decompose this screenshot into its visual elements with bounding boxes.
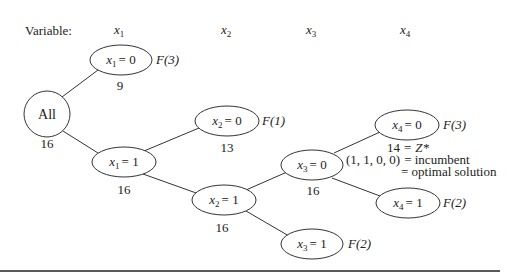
edge-x1-1-x2-1 xyxy=(143,174,199,194)
node-root: All 16 xyxy=(24,91,70,151)
node-x1-0: x1= 0 9 F(3) xyxy=(90,45,179,93)
node-root-label: All xyxy=(38,107,56,122)
edge-x2-1-x3-1 xyxy=(246,211,289,236)
node-x3-1: x3= 1 F(2) xyxy=(281,229,371,259)
header-var-x1: x1 xyxy=(113,22,124,39)
node-x3-0-bound: 16 xyxy=(307,183,321,198)
edge-root-x1-0 xyxy=(62,70,98,97)
node-x1-0-bound: 9 xyxy=(117,78,124,93)
edge-root-x1-1 xyxy=(63,131,98,153)
header-var-x4: x4 xyxy=(399,22,411,39)
node-x3-0: x3= 0 16 xyxy=(281,150,343,198)
node-x2-0: x2= 0 13 F(1) xyxy=(195,106,285,155)
variable-header-label: Variable: xyxy=(25,23,72,38)
node-x2-1-bound: 16 xyxy=(216,220,230,235)
node-x2-1: x2= 1 16 xyxy=(192,185,256,235)
annotation-optimal-solution: = optimal solution xyxy=(401,164,497,179)
node-x4-1: x4= 1 F(2) xyxy=(376,188,466,218)
node-x1-1-bound: 16 xyxy=(118,182,132,197)
node-x2-0-bound: 13 xyxy=(221,140,234,155)
node-x4-0-label: x4= 0 xyxy=(391,117,421,134)
node-x3-0-label: x3= 0 xyxy=(296,157,326,174)
header-var-x2: x2 xyxy=(220,22,231,39)
node-x4-1-fathom: F(2) xyxy=(442,195,466,210)
edge-x1-1-x2-0 xyxy=(144,128,199,151)
edge-x2-1-x3-0 xyxy=(246,172,287,190)
edge-x3-0-x4-0 xyxy=(334,132,380,153)
node-x2-0-fathom: F(1) xyxy=(261,113,285,128)
node-x4-0: x4= 0 F(3) xyxy=(375,110,466,140)
node-x3-1-fathom: F(2) xyxy=(347,236,371,251)
edge-x3-0-x4-1 xyxy=(332,178,380,196)
node-x1-1: x1= 1 16 xyxy=(92,147,156,197)
branch-and-bound-tree: Variable: x1 x2 x3 x4 All 16 x1= 0 9 F(3… xyxy=(0,0,519,272)
node-x4-0-fathom: F(3) xyxy=(442,117,466,132)
node-x2-0-label: x2= 0 xyxy=(211,113,241,130)
node-x1-1-label: x1= 1 xyxy=(108,154,138,171)
incumbent-annotation: 14=Z* (1, 1, 0, 0)= incumbent = optimal … xyxy=(346,140,497,179)
header-var-x3: x3 xyxy=(305,22,317,39)
node-x2-1-label: x2= 1 xyxy=(208,192,238,209)
node-x1-0-label: x1= 0 xyxy=(105,52,135,69)
node-x3-1-label: x3= 1 xyxy=(296,236,326,253)
node-x1-0-fathom: F(3) xyxy=(155,52,179,67)
node-x4-1-label: x4= 1 xyxy=(392,195,422,212)
node-root-bound: 16 xyxy=(41,136,55,151)
